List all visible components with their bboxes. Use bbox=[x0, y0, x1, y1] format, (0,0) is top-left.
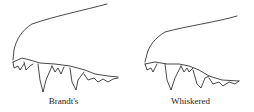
caption-brandts: Brandt's bbox=[0, 96, 127, 106]
figure-brandts: Brandt's bbox=[0, 0, 127, 112]
caption-whiskered: Whiskered bbox=[127, 96, 254, 106]
figure-whiskered: Whiskered bbox=[127, 0, 254, 112]
